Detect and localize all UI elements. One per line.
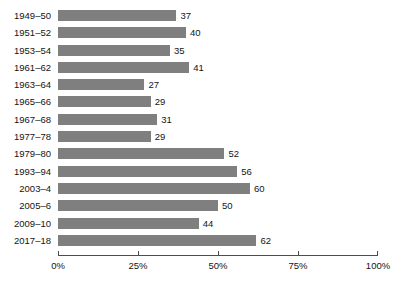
category-slot: 2017–18 [0, 234, 51, 251]
category-label: 1953–54 [14, 44, 51, 57]
x-axis-tick-label: 0% [51, 260, 65, 272]
category-slot: 1949–50 [0, 9, 51, 26]
bar [58, 96, 151, 107]
bar-value-label: 44 [203, 217, 214, 230]
category-label: 2003–4 [19, 182, 51, 195]
category-label: 1961–62 [14, 61, 51, 74]
x-axis-line [58, 255, 378, 256]
bar [58, 27, 186, 38]
category-slot: 1979–80 [0, 147, 51, 164]
bar-row: 31 [58, 113, 378, 130]
x-axis-tick [58, 251, 59, 255]
bar-value-label: 60 [254, 182, 265, 195]
x-axis-tick [377, 251, 378, 255]
x-axis-tick [298, 251, 299, 255]
bar-value-label: 29 [155, 95, 166, 108]
bar [58, 79, 144, 90]
bar [58, 45, 170, 56]
category-label: 2009–10 [14, 217, 51, 230]
x-axis-tick-label: 25% [128, 260, 147, 272]
category-slot: 2003–4 [0, 182, 51, 199]
bar-value-label: 37 [180, 9, 191, 22]
bar-row: 56 [58, 165, 378, 182]
bar-row: 29 [58, 130, 378, 147]
bar [58, 62, 189, 73]
category-slot: 1963–64 [0, 78, 51, 95]
category-label: 2005–6 [19, 199, 51, 212]
bar [58, 218, 199, 229]
bar [58, 200, 218, 211]
category-label: 1993–94 [14, 165, 51, 178]
bar [58, 131, 151, 142]
bar-value-label: 41 [193, 61, 204, 74]
x-axis-tick [218, 251, 219, 255]
category-slot: 1951–52 [0, 26, 51, 43]
bar-value-label: 50 [222, 199, 233, 212]
bar-row: 27 [58, 78, 378, 95]
category-label: 1963–64 [14, 78, 51, 91]
category-label: 1965–66 [14, 95, 51, 108]
bar [58, 114, 157, 125]
bar-value-label: 56 [241, 165, 252, 178]
category-slot: 1961–62 [0, 61, 51, 78]
bar [58, 166, 237, 177]
bar-value-label: 40 [190, 26, 201, 39]
category-slot: 1993–94 [0, 165, 51, 182]
bar-value-label: 27 [148, 78, 159, 91]
bar-row: 29 [58, 95, 378, 112]
bar [58, 148, 224, 159]
x-axis-tick-label: 100% [366, 260, 390, 272]
x-axis: 0% 25% 50% 75% 100% [58, 255, 378, 285]
category-label: 1979–80 [14, 147, 51, 160]
bar-row: 37 [58, 9, 378, 26]
bar-row: 41 [58, 61, 378, 78]
category-slot: 2005–6 [0, 199, 51, 216]
category-slot: 2009–10 [0, 217, 51, 234]
x-axis-tick-label: 50% [208, 260, 227, 272]
x-axis-tick [138, 251, 139, 255]
bar [58, 10, 176, 21]
bar-value-label: 31 [161, 113, 172, 126]
x-axis-tick-label: 75% [288, 260, 307, 272]
category-label: 1949–50 [14, 9, 51, 22]
bar-row: 44 [58, 217, 378, 234]
bar [58, 183, 250, 194]
bar-row: 40 [58, 26, 378, 43]
bar-value-label: 52 [228, 147, 239, 160]
plot-area: 37 40 35 41 27 29 31 29 [58, 9, 378, 252]
category-slot: 1977–78 [0, 130, 51, 147]
category-slot: 1965–66 [0, 95, 51, 112]
bar-value-label: 35 [174, 44, 185, 57]
category-label: 2017–18 [14, 234, 51, 247]
bar-row: 50 [58, 199, 378, 216]
bar-row: 52 [58, 147, 378, 164]
bar-chart: 1949–50 1951–52 1953–54 1961–62 1963–64 … [0, 0, 401, 292]
category-axis: 1949–50 1951–52 1953–54 1961–62 1963–64 … [0, 9, 51, 252]
bar-value-label: 62 [260, 234, 271, 247]
category-slot: 1953–54 [0, 44, 51, 61]
category-label: 1967–68 [14, 113, 51, 126]
bar-row: 35 [58, 44, 378, 61]
category-slot: 1967–68 [0, 113, 51, 130]
bar-value-label: 29 [155, 130, 166, 143]
category-label: 1951–52 [14, 26, 51, 39]
bar-row: 60 [58, 182, 378, 199]
category-label: 1977–78 [14, 130, 51, 143]
bar-row: 62 [58, 234, 378, 251]
bar [58, 235, 256, 246]
